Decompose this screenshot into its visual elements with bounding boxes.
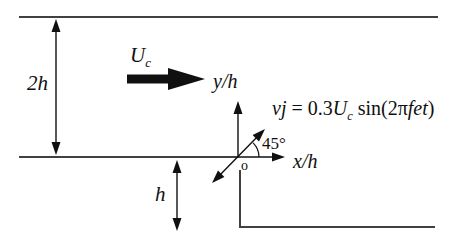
y-axis-label: y/h <box>213 70 237 93</box>
equation-term-equals: = 0.3 <box>286 97 332 119</box>
equation-term-close-paren: ) <box>428 97 435 119</box>
velocity-label-uc: Uc <box>130 43 151 67</box>
arrowhead-2h-bottom <box>52 142 61 155</box>
arrowhead-x-axis <box>272 153 285 162</box>
angle-arc <box>253 143 259 157</box>
velocity-label-main: U <box>130 43 145 67</box>
backward-facing-step-flow-schematic: 2h Uc y/h x/h 45° o h vj = 0.3Uc sin(2πf… <box>0 0 464 248</box>
equation-term-sin: sin(2π <box>353 97 408 119</box>
angle-label: 45° <box>262 134 286 154</box>
schematic-drawing <box>0 0 464 248</box>
origin-label: o <box>241 158 248 174</box>
arrowhead-y-axis <box>234 101 243 114</box>
x-axis-label: x/h <box>293 150 317 173</box>
arrowhead-2h-top <box>52 19 61 32</box>
jet-velocity-equation: vj = 0.3Uc sin(2πfet) <box>272 97 434 120</box>
arrowhead-h-bottom <box>173 218 182 231</box>
dimension-label-2h: 2h <box>27 71 48 95</box>
arrowhead-h-top <box>173 160 182 173</box>
convection-velocity-arrow <box>127 68 205 90</box>
equation-term-vj: vj <box>272 97 286 119</box>
equation-term-fet: fet <box>408 97 428 119</box>
step-outline <box>240 170 435 227</box>
dimension-label-h: h <box>155 182 166 206</box>
equation-term-u: U <box>333 97 347 119</box>
velocity-label-subscript: c <box>145 55 151 70</box>
